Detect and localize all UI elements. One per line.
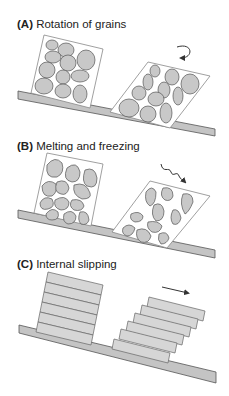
- curved-rotation-arrow: [177, 46, 190, 58]
- diagram: [0, 0, 229, 396]
- panel-a: [18, 35, 215, 136]
- straight-arrow: [162, 287, 188, 293]
- panel-b: [18, 153, 215, 258]
- layer-stack-before: [36, 272, 103, 345]
- wavy-arrow: [161, 164, 185, 182]
- panel-c: [19, 272, 216, 383]
